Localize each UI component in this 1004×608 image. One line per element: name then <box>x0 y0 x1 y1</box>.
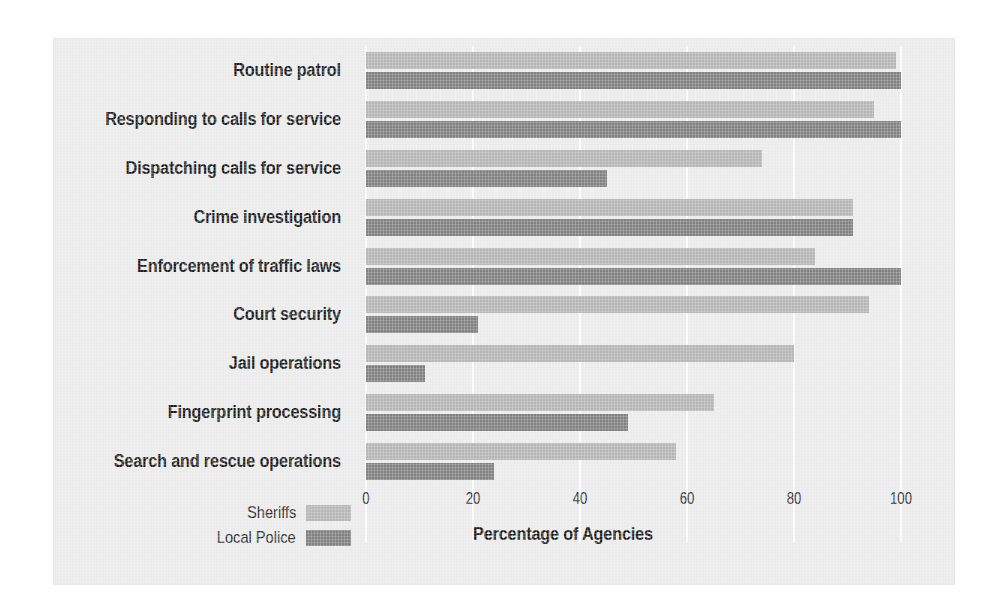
bar-local-police <box>366 365 425 382</box>
category-label: Dispatching calls for service <box>74 144 353 193</box>
category-label: Search and rescue operations <box>74 437 353 486</box>
bar-sheriffs <box>366 101 874 118</box>
bar-sheriffs <box>366 394 714 411</box>
category-label: Fingerprint processing <box>74 388 353 437</box>
bar-group <box>366 437 901 486</box>
legend-item-local-police: Local Police <box>111 525 351 550</box>
bar-group <box>366 46 901 95</box>
category-label: Responding to calls for service <box>74 95 353 144</box>
x-tick-label: 0 <box>362 490 371 508</box>
category-label: Court security <box>74 290 353 339</box>
category-label: Enforcement of traffic laws <box>74 242 353 291</box>
bar-group <box>366 290 901 339</box>
bar-local-police <box>366 72 901 89</box>
bar-local-police <box>366 316 478 333</box>
bar-group <box>366 242 901 291</box>
category-label: Jail operations <box>74 339 353 388</box>
bar-sheriffs <box>366 52 896 69</box>
bar-local-police <box>366 414 628 431</box>
bar-local-police <box>366 219 853 236</box>
bar-sheriffs <box>366 199 853 216</box>
x-tick-label: 20 <box>464 490 482 508</box>
legend-item-sheriffs: Sheriffs <box>111 500 351 525</box>
bar-sheriffs <box>366 150 762 167</box>
plot-area <box>366 46 901 486</box>
bar-local-police <box>366 121 901 138</box>
legend-swatch-sheriffs <box>306 505 351 521</box>
legend-swatch-local-police <box>306 530 351 546</box>
bar-group <box>366 144 901 193</box>
bar-group <box>366 193 901 242</box>
x-axis-title: Percentage of Agencies <box>473 524 666 545</box>
bar-sheriffs <box>366 296 869 313</box>
x-tick-label: 100 <box>888 490 915 508</box>
x-tick-label: 60 <box>678 490 696 508</box>
x-tick-label: 80 <box>785 490 803 508</box>
bar-group <box>366 95 901 144</box>
category-axis-labels: Routine patrol Responding to calls for s… <box>53 46 353 486</box>
legend-label-text: Local Police <box>217 528 296 548</box>
x-tick-label: 40 <box>571 490 589 508</box>
bar-local-police <box>366 463 494 480</box>
bar-groups <box>366 46 901 486</box>
bar-local-police <box>366 170 607 187</box>
x-axis-title-text: Percentage of Agencies <box>473 524 653 545</box>
legend-label: Sheriffs <box>239 503 296 523</box>
legend: Sheriffs Local Police <box>111 500 351 550</box>
bar-sheriffs <box>366 345 794 362</box>
bar-local-police <box>366 268 901 285</box>
bar-sheriffs <box>366 248 815 265</box>
chart-figure: Routine patrol Responding to calls for s… <box>0 0 1004 608</box>
bar-sheriffs <box>366 443 676 460</box>
x-axis-ticks: 020406080100 <box>366 490 901 512</box>
category-label: Routine patrol <box>74 46 353 95</box>
legend-label: Local Police <box>204 528 296 548</box>
bar-group <box>366 339 901 388</box>
bar-group <box>366 388 901 437</box>
chart-panel: Routine patrol Responding to calls for s… <box>53 38 955 585</box>
legend-label-text: Sheriffs <box>247 503 296 523</box>
category-label: Crime investigation <box>74 193 353 242</box>
